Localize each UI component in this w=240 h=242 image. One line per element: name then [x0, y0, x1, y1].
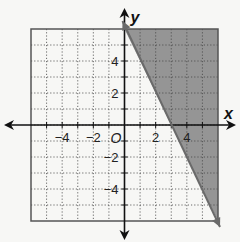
origin-label: O [111, 130, 122, 146]
x-axis-label: x [223, 105, 234, 122]
y-tick-label: −2 [104, 150, 119, 165]
x-tick-label: 2 [152, 130, 159, 145]
y-axis-label: y [130, 9, 141, 26]
y-tick-label: −4 [104, 182, 119, 197]
x-tick-label: 4 [183, 130, 190, 145]
y-tick-label: 4 [111, 54, 118, 69]
x-tick-label: −2 [86, 130, 101, 145]
y-tick-label: 2 [111, 86, 118, 101]
x-tick-label: −4 [55, 130, 70, 145]
inequality-graph: −4−22442−2−4 x y O [0, 0, 240, 242]
